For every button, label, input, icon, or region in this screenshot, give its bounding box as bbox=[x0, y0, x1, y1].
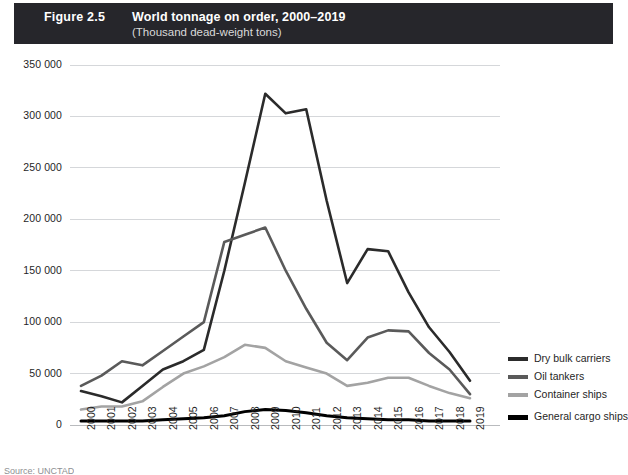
y-tick-label-0: 0 bbox=[0, 418, 62, 430]
y-tick-label-300000: 300 000 bbox=[0, 109, 62, 121]
x-tick-label-2016: 2016 bbox=[413, 406, 425, 430]
x-tick-label-2017: 2017 bbox=[433, 406, 445, 430]
x-tick-label-2018: 2018 bbox=[454, 406, 466, 430]
y-tick-label-200000: 200 000 bbox=[0, 212, 62, 224]
x-tick-label-2013: 2013 bbox=[351, 406, 363, 430]
legend-swatch-icon bbox=[508, 375, 528, 379]
figure-header-inner: Figure 2.5 World tonnage on order, 2000–… bbox=[14, 3, 613, 44]
chart-gridlines bbox=[70, 65, 500, 425]
legend-swatch-icon bbox=[508, 393, 528, 397]
y-tick-label-350000: 350 000 bbox=[0, 58, 62, 70]
x-tick-label-2019: 2019 bbox=[474, 406, 486, 430]
legend-label: Dry bulk carriers bbox=[534, 352, 610, 364]
figure-header-bar: Figure 2.5 World tonnage on order, 2000–… bbox=[14, 3, 613, 44]
x-tick-label-2010: 2010 bbox=[290, 406, 302, 430]
y-tick-label-150000: 150 000 bbox=[0, 264, 62, 276]
figure-number-label: Figure 2.5 bbox=[44, 10, 105, 24]
x-tick-label-2014: 2014 bbox=[372, 406, 384, 430]
source-note: Source: UNCTAD bbox=[4, 466, 74, 475]
legend-label: General cargo ships bbox=[534, 410, 628, 422]
y-tick-label-250000: 250 000 bbox=[0, 161, 62, 173]
chart-series-group bbox=[81, 94, 470, 421]
x-tick-label-2005: 2005 bbox=[187, 406, 199, 430]
legend-label: Container ships bbox=[534, 388, 607, 400]
x-tick-label-2006: 2006 bbox=[208, 406, 220, 430]
x-tick-label-2012: 2012 bbox=[331, 406, 343, 430]
chart-plot-area: 050 000100 000150 000200 000250 000300 0… bbox=[0, 44, 627, 475]
x-tick-label-2004: 2004 bbox=[167, 406, 179, 430]
x-tick-label-2011: 2011 bbox=[310, 407, 322, 430]
y-tick-label-100000: 100 000 bbox=[0, 315, 62, 327]
x-tick-label-2003: 2003 bbox=[146, 406, 158, 430]
x-tick-label-2007: 2007 bbox=[228, 406, 240, 430]
x-tick-label-2002: 2002 bbox=[126, 406, 138, 430]
legend-label: Oil tankers bbox=[534, 370, 584, 382]
x-tick-label-2015: 2015 bbox=[392, 406, 404, 430]
x-tick-label-2001: 2001 bbox=[105, 406, 117, 430]
x-tick-label-2009: 2009 bbox=[269, 406, 281, 430]
y-tick-label-50000: 50 000 bbox=[0, 367, 62, 379]
series-line-container-ships bbox=[81, 345, 470, 410]
x-tick-label-2008: 2008 bbox=[249, 406, 261, 430]
legend-swatch-icon bbox=[508, 357, 528, 361]
figure-title: World tonnage on order, 2000–2019 bbox=[132, 10, 346, 24]
series-line-oil-tankers bbox=[81, 228, 470, 395]
x-tick-label-2000: 2000 bbox=[85, 406, 97, 430]
figure-subtitle: (Thousand dead-weight tons) bbox=[132, 26, 282, 38]
legend-swatch-icon bbox=[508, 415, 528, 420]
